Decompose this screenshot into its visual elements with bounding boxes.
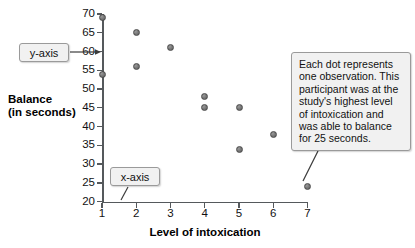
x-tick-label: 4 [195, 208, 215, 220]
data-point [270, 131, 277, 138]
data-point [133, 29, 140, 36]
y-tick-mark [97, 88, 102, 89]
y-tick-label: 40 [71, 121, 95, 133]
x-tick-label: 6 [263, 208, 283, 220]
y-axis-line [102, 14, 104, 203]
x-axis-callout: x-axis [110, 167, 160, 186]
note-leader-line [303, 151, 318, 181]
data-point [201, 93, 208, 100]
observation-note-callout: Each dot represents one observation. Thi… [291, 52, 411, 151]
x-tick-label: 7 [298, 208, 318, 220]
y-axis-title-line-2: (in seconds) [8, 106, 92, 119]
data-point [201, 104, 208, 111]
y-tick-label: 35 [71, 139, 95, 151]
data-point [99, 71, 106, 78]
x-axis-leader-line [121, 187, 128, 200]
y-tick-mark [97, 107, 102, 108]
y-axis-title: Balance (in seconds) [8, 93, 92, 119]
y-tick-label: 65 [71, 27, 95, 39]
scatter-plot-figure: 2025303540455055606570 1234567 Balance (… [0, 0, 415, 248]
y-tick-mark [97, 163, 102, 164]
data-point [99, 14, 106, 21]
y-axis-callout: y-axis [19, 43, 69, 62]
y-tick-mark [97, 126, 102, 127]
data-point [236, 146, 243, 153]
y-axis-title-line-1: Balance [8, 93, 52, 105]
y-tick-mark [97, 32, 102, 33]
y-tick-label: 70 [71, 8, 95, 20]
x-tick-label: 5 [229, 208, 249, 220]
data-point [167, 44, 174, 51]
data-point [133, 63, 140, 70]
y-tick-label: 30 [71, 158, 95, 170]
data-point [304, 183, 311, 190]
y-tick-mark [97, 182, 102, 183]
y-tick-label: 60 [71, 46, 95, 58]
data-point [236, 104, 243, 111]
x-tick-label: 2 [126, 208, 146, 220]
y-tick-label: 55 [71, 64, 95, 76]
y-tick-mark [97, 51, 102, 52]
y-tick-label: 25 [71, 177, 95, 189]
x-tick-label: 1 [92, 208, 112, 220]
x-tick-label: 3 [161, 208, 181, 220]
x-axis-title: Level of intoxication [102, 226, 308, 238]
y-tick-mark [97, 145, 102, 146]
y-tick-label: 20 [71, 196, 95, 208]
